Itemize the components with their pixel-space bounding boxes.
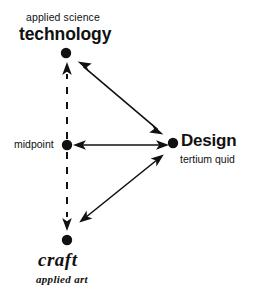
design-primary-label: Design <box>181 132 236 149</box>
craft-secondary-label: applied art <box>36 274 88 285</box>
arrowhead-down-craft <box>62 218 72 231</box>
arrowhead-up-technology <box>62 62 72 75</box>
arrowhead-design-end-upper <box>149 124 163 135</box>
midpoint-primary-label: midpoint <box>14 139 54 150</box>
diagram-canvas: applied science technology midpoint Desi… <box>0 0 256 294</box>
technology-primary-label: technology <box>19 26 111 44</box>
edge-line-diagonal-lower <box>86 160 158 218</box>
edge-craft-to-design <box>79 154 164 222</box>
edge-midpoint-to-design <box>73 140 169 150</box>
edge-midpoint-to-craft <box>62 152 72 231</box>
technology-secondary-label: applied science <box>26 12 100 23</box>
craft-node-dot[interactable] <box>62 235 72 245</box>
design-node-dot[interactable] <box>168 138 178 148</box>
edge-line-diagonal-upper <box>84 67 158 130</box>
edge-technology-to-design <box>78 62 164 135</box>
arrowhead-craft-end <box>79 211 92 223</box>
design-secondary-label: tertium quid <box>180 154 235 165</box>
midpoint-node-dot[interactable] <box>62 140 72 150</box>
arrowhead-technology-end <box>78 62 92 73</box>
edge-midpoint-to-technology <box>62 62 72 139</box>
technology-node-dot[interactable] <box>61 48 71 58</box>
craft-primary-label: craft <box>38 250 77 269</box>
arrowhead-design-end-lower <box>151 154 164 166</box>
